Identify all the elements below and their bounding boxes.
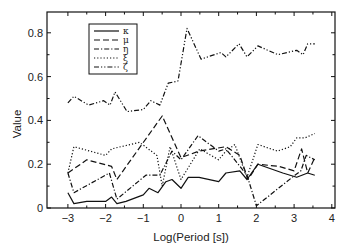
x-axis-label: Log(Period [s]): [153, 231, 229, 243]
y-tick-label: 0.6: [28, 71, 43, 83]
series-line-solid: [68, 164, 315, 203]
x-tick-label: −2: [99, 212, 112, 224]
y-tick-label: 0.8: [28, 27, 43, 39]
x-tick-label: −1: [137, 212, 150, 224]
x-tick-label: 4: [329, 212, 335, 224]
series-line-dashed: [68, 116, 315, 180]
x-tick-label: 2: [253, 212, 259, 224]
y-tick-label: 0.2: [28, 158, 43, 170]
legend-entry-label: ζ: [123, 62, 128, 72]
x-tick-label: 0: [178, 212, 184, 224]
y-tick-label: 0.4: [28, 114, 43, 126]
line-chart: −3−2−101234 00.20.40.60.8 κμηξζ Log(Peri…: [0, 0, 348, 247]
x-tick-label: −3: [62, 212, 75, 224]
y-axis-label: Value: [11, 110, 23, 139]
legend: κμηξζ: [89, 24, 137, 74]
x-tick-label: 3: [291, 212, 297, 224]
series-line-dotted: [68, 134, 315, 187]
x-tick-labels: −3−2−101234: [62, 212, 335, 224]
x-tick-label: 1: [216, 212, 222, 224]
y-tick-labels: 00.20.40.60.8: [28, 27, 43, 214]
y-tick-label: 0: [37, 202, 43, 214]
